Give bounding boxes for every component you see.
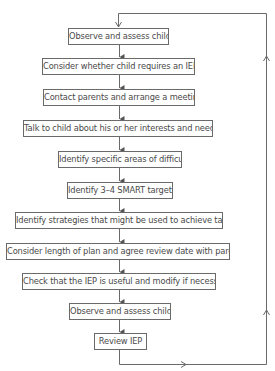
step-review-iep: Review IEP	[94, 333, 147, 350]
step-check-iep-useful: Check that the IEP is useful and modify …	[22, 273, 216, 290]
step-consider-iep-need: Consider whether child requires an IEP	[42, 58, 195, 75]
step-plan-length-review-date: Consider length of plan and agree review…	[6, 243, 230, 260]
step-observe-assess-child: Observe and assess child	[68, 28, 169, 45]
step-identify-smart-targets: Identify 3–4 SMART targets	[67, 182, 173, 199]
step-talk-to-child: Talk to child about his or her interests…	[23, 120, 213, 137]
step-identify-difficulty-areas: Identify specific areas of difficulty	[58, 151, 182, 168]
step-observe-assess-child-again: Observe and assess child	[69, 303, 171, 320]
step-identify-strategies: Identify strategies that might be used t…	[15, 212, 223, 229]
iep-process-flowchart: Observe and assess child Consider whethe…	[0, 0, 275, 371]
step-contact-parents: Contact parents and arrange a meeting	[43, 89, 195, 106]
